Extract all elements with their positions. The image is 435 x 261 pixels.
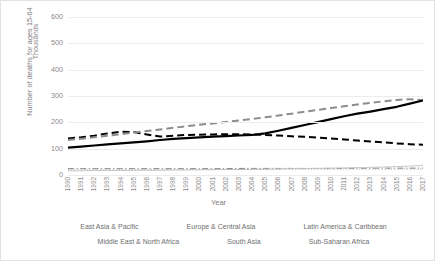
y-tick-label: 300 bbox=[37, 92, 63, 99]
gridline bbox=[68, 175, 423, 176]
y-axis-tick-labels: 0100200300400500600 bbox=[37, 17, 63, 175]
x-axis-tick-labels: 1990199119921993199419951996199719981999… bbox=[68, 177, 423, 197]
legend-label: Middle East & North Africa bbox=[98, 238, 180, 245]
legend-label: Europe & Central Asia bbox=[187, 223, 256, 230]
x-tick-label: 1991 bbox=[78, 177, 84, 191]
x-tick-label: 2009 bbox=[315, 177, 321, 191]
y-tick-label: 100 bbox=[37, 145, 63, 152]
y-tick-label: 500 bbox=[37, 40, 63, 47]
x-tick-label: 2004 bbox=[249, 177, 255, 191]
x-tick-label: 1990 bbox=[65, 177, 71, 191]
x-tick-label: 2002 bbox=[223, 177, 229, 191]
legend-label: East Asia & Pacific bbox=[80, 223, 138, 230]
x-tick-label: 1993 bbox=[104, 177, 110, 191]
x-tick-label: 2000 bbox=[196, 177, 202, 191]
x-axis-title: Year bbox=[1, 198, 435, 207]
x-tick-label: 2008 bbox=[302, 177, 308, 191]
gridline bbox=[68, 17, 423, 18]
legend-item-east-asia-pacific[interactable]: East Asia & Pacific bbox=[50, 223, 138, 230]
legend-row: East Asia & PacificEurope & Central Asia… bbox=[1, 219, 435, 233]
legend-item-middle-east-north-africa[interactable]: Middle East & North Africa bbox=[68, 238, 180, 245]
gridline bbox=[68, 122, 423, 123]
x-tick-label: 1999 bbox=[183, 177, 189, 191]
gridline bbox=[68, 70, 423, 71]
series-line-east-asia-pacific bbox=[68, 168, 423, 169]
x-tick-label: 2005 bbox=[262, 177, 268, 191]
x-tick-label: 2003 bbox=[236, 177, 242, 191]
plot-area bbox=[68, 17, 423, 175]
legend-item-sub-saharan-africa[interactable]: Sub-Saharan Africa bbox=[279, 238, 370, 245]
x-tick-label: 2014 bbox=[381, 177, 387, 191]
x-tick-label: 1992 bbox=[91, 177, 97, 191]
chart-legend: East Asia & PacificEurope & Central Asia… bbox=[1, 219, 435, 259]
x-tick-label: 2013 bbox=[367, 177, 373, 191]
x-tick-label: 2001 bbox=[210, 177, 216, 191]
x-tick-label: 2006 bbox=[275, 177, 281, 191]
x-tick-label: 2016 bbox=[407, 177, 413, 191]
legend-item-south-asia[interactable]: South Asia bbox=[197, 238, 260, 245]
x-tick-label: 2010 bbox=[328, 177, 334, 191]
x-tick-label: 1998 bbox=[170, 177, 176, 191]
gridline bbox=[68, 96, 423, 97]
legend-row: Middle East & North AfricaSouth AsiaSub-… bbox=[1, 234, 435, 248]
x-tick-label: 1995 bbox=[131, 177, 137, 191]
y-tick-label: 400 bbox=[37, 66, 63, 73]
legend-item-latin-america-caribbean[interactable]: Latin America & Caribbean bbox=[273, 223, 386, 230]
y-tick-label: 600 bbox=[37, 13, 63, 20]
gridline bbox=[68, 43, 423, 44]
x-tick-label: 1994 bbox=[118, 177, 124, 191]
legend-label: Latin America & Caribbean bbox=[303, 223, 386, 230]
x-tick-label: 2012 bbox=[354, 177, 360, 191]
legend-label: Sub-Saharan Africa bbox=[309, 238, 370, 245]
x-tick-label: 2007 bbox=[289, 177, 295, 191]
gridline bbox=[68, 149, 423, 150]
chart-container: Number of deaths for ages 15-64 Thousand… bbox=[0, 0, 435, 261]
y-tick-label: 200 bbox=[37, 119, 63, 126]
x-tick-label: 1997 bbox=[157, 177, 163, 191]
y-tick-label: 0 bbox=[37, 171, 63, 178]
x-tick-label: 2011 bbox=[341, 177, 347, 191]
x-tick-label: 2015 bbox=[394, 177, 400, 191]
legend-item-europe-central-asia[interactable]: Europe & Central Asia bbox=[157, 223, 256, 230]
x-tick-label: 2017 bbox=[420, 177, 426, 191]
legend-label: South Asia bbox=[227, 238, 260, 245]
x-tick-label: 1996 bbox=[144, 177, 150, 191]
